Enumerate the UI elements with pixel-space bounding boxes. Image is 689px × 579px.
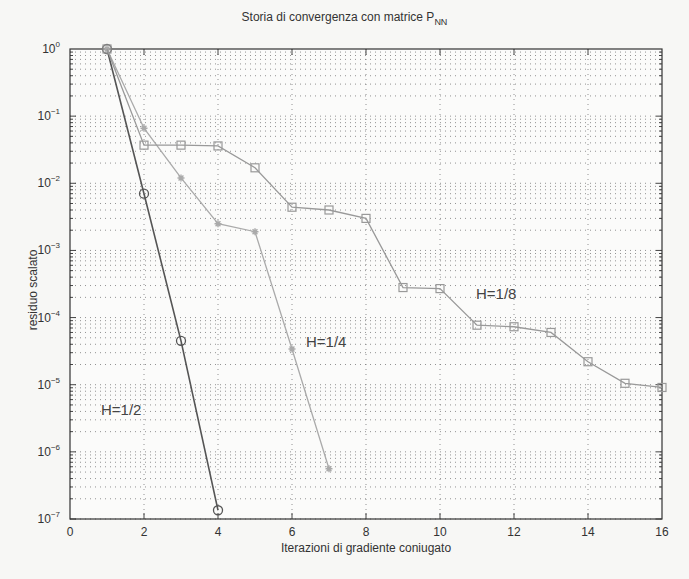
x-tick-label: 6: [289, 525, 296, 539]
y-tick-label: 10−5: [38, 376, 61, 392]
y-tick-label: 100: [42, 40, 60, 56]
convergence-chart: 024681012141610010−110−210−310−410−510−6…: [0, 0, 689, 579]
y-tick-label: 10−1: [38, 107, 61, 123]
grid: [70, 49, 662, 519]
x-tick-label: 14: [581, 525, 595, 539]
y-tick-label: 10−6: [38, 443, 61, 459]
star-marker: [215, 220, 222, 227]
x-tick-label: 16: [655, 525, 669, 539]
star-marker: [252, 228, 259, 235]
y-tick-label: 10−2: [38, 174, 61, 190]
y-tick-label: 10−7: [38, 510, 61, 526]
star-marker: [178, 174, 185, 181]
x-tick-label: 0: [67, 525, 74, 539]
annotation-h-quarter: H=1/4: [306, 333, 346, 350]
annotation-h-eighth: H=1/8: [476, 285, 516, 302]
y-tick-label: 10−4: [38, 309, 61, 325]
x-tick-label: 10: [433, 525, 447, 539]
y-axis-label: residuo scalato: [26, 250, 40, 331]
x-tick-label: 12: [507, 525, 521, 539]
x-tick-label: 2: [141, 525, 148, 539]
title-text: Storia di convergenza con matrice P: [242, 10, 435, 24]
title-subscript: NN: [434, 17, 447, 27]
chart-title: Storia di convergenza con matrice PNN: [0, 10, 689, 27]
x-tick-label: 4: [215, 525, 222, 539]
x-tick-label: 8: [363, 525, 370, 539]
y-tick-label: 10−3: [38, 241, 61, 257]
x-axis-label: Iterazioni di gradiente coniugato: [70, 541, 662, 555]
annotation-h-half: H=1/2: [101, 401, 141, 418]
